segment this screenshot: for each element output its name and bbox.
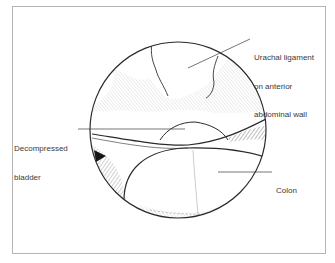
label-line: Decompressed: [14, 144, 68, 154]
label-line: bladder: [14, 173, 68, 183]
label-decompressed-bladder: Decompressed bladder: [14, 125, 68, 192]
label-line: abdominal wall: [254, 110, 314, 120]
label-line: Urachal ligament: [254, 53, 314, 63]
label-line: Colon: [276, 186, 297, 196]
label-urachal-ligament: Urachal ligament on anterior abdominal w…: [254, 34, 314, 129]
label-colon: Colon: [276, 167, 297, 205]
label-line: on anterior: [254, 82, 314, 92]
